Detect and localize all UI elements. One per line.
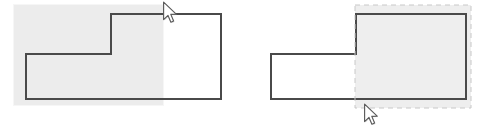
drag-selection-panel [0,0,245,128]
illustration-canvas [0,0,490,128]
right-panel-graphic [245,0,490,128]
selection-marquee-rect-fill [355,5,471,108]
left-panel-graphic [0,0,245,128]
marquee-result-panel [245,0,490,128]
mouse-pointer[interactable] [164,2,178,23]
